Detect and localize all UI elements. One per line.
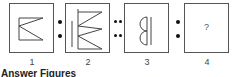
figure-4-label: 4 (184, 57, 230, 67)
question-mark: ? (185, 22, 228, 32)
zigzag-icon (10, 4, 55, 54)
figure-1-box (9, 3, 54, 53)
figure-3-box (124, 3, 169, 53)
figure-2-label: 2 (65, 57, 111, 67)
figure-1-label: 1 (9, 57, 55, 67)
figure-2-box (65, 3, 110, 53)
answer-figures-heading: Answer Figures (1, 68, 76, 77)
figure-3-label: 3 (124, 57, 170, 67)
half-circles-icon (125, 4, 170, 54)
figure-4-box: ? (184, 3, 229, 53)
double-zigzag-icon (66, 4, 111, 54)
